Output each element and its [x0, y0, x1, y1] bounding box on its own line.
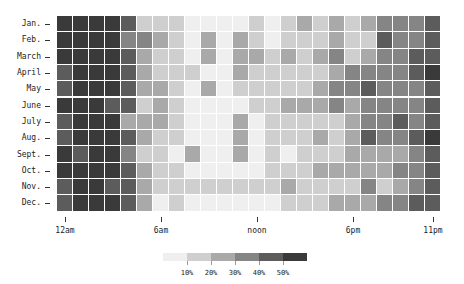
- heatmap-cell: [153, 98, 168, 113]
- heatmap-cell: [393, 49, 408, 64]
- y-tick-label: Oct.: [22, 166, 41, 176]
- heatmap-cell: [425, 179, 440, 194]
- heatmap-cell: [377, 49, 392, 64]
- heatmap-cell: [425, 163, 440, 178]
- heatmap-cell: [89, 65, 104, 80]
- heatmap-cell: [233, 49, 248, 64]
- heatmap-cell: [233, 32, 248, 47]
- heatmap-cell: [345, 114, 360, 129]
- heatmap-cell: [265, 32, 280, 47]
- heatmap-cell: [313, 98, 328, 113]
- heatmap-cell: [137, 179, 152, 194]
- heatmap-cell: [57, 16, 72, 31]
- heatmap-cell: [265, 81, 280, 96]
- heatmap-cell: [121, 49, 136, 64]
- heatmap-cell: [313, 65, 328, 80]
- heatmap-cell: [89, 49, 104, 64]
- heatmap-cell: [233, 179, 248, 194]
- heatmap-cell: [217, 65, 232, 80]
- heatmap-cell: [201, 114, 216, 129]
- y-tick-label: Sept.: [17, 150, 41, 160]
- heatmap-cell: [281, 32, 296, 47]
- x-tick-mark: [161, 217, 162, 222]
- heatmap-cell: [297, 146, 312, 161]
- heatmap-cell: [409, 98, 424, 113]
- y-tick-mark: [45, 73, 50, 74]
- y-tick-mark: [45, 138, 50, 139]
- heatmap-cell: [137, 65, 152, 80]
- heatmap-cell: [217, 16, 232, 31]
- heatmap-cell: [121, 163, 136, 178]
- heatmap-cell: [329, 195, 344, 210]
- heatmap-cell: [57, 114, 72, 129]
- heatmap-cell: [73, 49, 88, 64]
- heatmap-cell: [217, 195, 232, 210]
- legend-tick-mark: [187, 261, 188, 265]
- heatmap-cell: [89, 16, 104, 31]
- heatmap-cell: [217, 81, 232, 96]
- x-tick-label: 11pm: [423, 226, 442, 236]
- heatmap-cell: [121, 114, 136, 129]
- heatmap-cell: [153, 65, 168, 80]
- heatmap-cell: [169, 195, 184, 210]
- heatmap-cell: [169, 65, 184, 80]
- heatmap-cell: [297, 16, 312, 31]
- heatmap-cell: [185, 49, 200, 64]
- y-tick-label: Dec.: [22, 198, 41, 208]
- heatmap-cell: [281, 81, 296, 96]
- heatmap-cell: [89, 98, 104, 113]
- heatmap-cell: [425, 65, 440, 80]
- heatmap-cell: [89, 163, 104, 178]
- heatmap-cell: [377, 195, 392, 210]
- heatmap-cell: [217, 163, 232, 178]
- heatmap-cell: [425, 98, 440, 113]
- heatmap-cell: [185, 195, 200, 210]
- heatmap-cell: [185, 98, 200, 113]
- heatmap-cell: [265, 16, 280, 31]
- heatmap-cell: [121, 130, 136, 145]
- heatmap-cell: [345, 146, 360, 161]
- heatmap-cell: [89, 195, 104, 210]
- heatmap-cell: [393, 163, 408, 178]
- heatmap-cell: [425, 195, 440, 210]
- heatmap-cell: [361, 98, 376, 113]
- heatmap-cell: [425, 130, 440, 145]
- heatmap-cell: [281, 163, 296, 178]
- y-tick-label: April: [17, 68, 41, 78]
- heatmap-cell: [201, 163, 216, 178]
- heatmap-cell: [377, 81, 392, 96]
- heatmap-cell: [393, 65, 408, 80]
- heatmap-cell: [297, 65, 312, 80]
- heatmap-cell: [249, 179, 264, 194]
- heatmap-cell: [249, 32, 264, 47]
- heatmap-cell: [313, 32, 328, 47]
- y-tick-mark: [45, 155, 50, 156]
- heatmap-cell: [153, 81, 168, 96]
- heatmap-cell: [57, 65, 72, 80]
- heatmap-cell: [57, 98, 72, 113]
- heatmap-cell: [297, 179, 312, 194]
- heatmap-cell: [345, 65, 360, 80]
- heatmap-cell: [169, 32, 184, 47]
- heatmap-cell: [265, 179, 280, 194]
- heatmap-cell: [377, 179, 392, 194]
- heatmap-cell: [329, 146, 344, 161]
- heatmap-cell: [361, 32, 376, 47]
- heatmap-cell: [345, 81, 360, 96]
- heatmap-cell: [393, 16, 408, 31]
- heatmap-cell: [153, 49, 168, 64]
- heatmap-cell: [57, 32, 72, 47]
- heatmap-cell: [105, 98, 120, 113]
- heatmap-cell: [105, 195, 120, 210]
- heatmap-cell: [185, 81, 200, 96]
- heatmap-cell: [233, 195, 248, 210]
- heatmap-cell: [345, 195, 360, 210]
- heatmap-cell: [57, 81, 72, 96]
- heatmap-cell: [249, 65, 264, 80]
- heatmap-cell: [393, 32, 408, 47]
- heatmap-cell: [393, 98, 408, 113]
- heatmap-cell: [297, 98, 312, 113]
- heatmap-cell: [297, 114, 312, 129]
- heatmap-cell: [313, 195, 328, 210]
- heatmap-cell: [393, 179, 408, 194]
